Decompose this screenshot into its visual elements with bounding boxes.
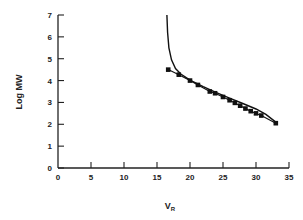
y-axis-label: Log MW (14, 74, 24, 109)
x-axis-label: VR (165, 201, 176, 212)
x-tick-label: 35 (285, 173, 294, 182)
data-point-marker (254, 111, 259, 116)
data-point-marker (248, 109, 253, 114)
y-axis: 01234567 (48, 11, 64, 173)
chart: 01234567 05101520253035 Log MW VR (0, 0, 303, 220)
x-tick-label: 0 (56, 173, 61, 182)
x-tick-label: 5 (89, 173, 94, 182)
data-point-marker (166, 67, 171, 72)
x-tick-label: 20 (186, 173, 195, 182)
x-tick-label: 30 (252, 173, 261, 182)
x-tick-label: 10 (120, 173, 129, 182)
y-tick-label: 1 (48, 142, 53, 151)
x-tick-label: 25 (219, 173, 228, 182)
y-tick-label: 4 (48, 77, 53, 86)
y-tick-label: 0 (48, 164, 53, 173)
plot-area (166, 15, 278, 125)
data-point-marker (238, 103, 243, 108)
data-point-marker (243, 106, 248, 111)
y-tick-label: 3 (48, 98, 53, 107)
y-tick-label: 6 (48, 33, 53, 42)
fitted-curve (167, 15, 276, 122)
x-axis: 05101520253035 (56, 162, 294, 182)
y-tick-label: 5 (48, 55, 53, 64)
x-tick-label: 15 (153, 173, 162, 182)
y-tick-label: 2 (48, 120, 53, 129)
y-tick-label: 7 (48, 11, 53, 20)
data-point-marker (259, 113, 264, 118)
